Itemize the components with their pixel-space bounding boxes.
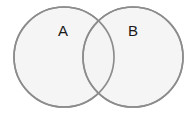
venn-diagram: A B xyxy=(0,0,191,115)
set-a-label: A xyxy=(58,22,68,39)
set-b-label: B xyxy=(128,22,138,39)
